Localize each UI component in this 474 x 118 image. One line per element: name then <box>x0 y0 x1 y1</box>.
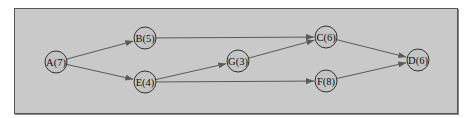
edge-g-to-c <box>249 40 315 58</box>
node-label: A(7) <box>46 57 66 69</box>
node-b: B(5) <box>134 27 156 49</box>
edge-a-to-e <box>67 64 134 79</box>
activity-network-diagram: A(7)B(5)E(4)G(3)C(6)F(8)D(6) <box>0 0 474 118</box>
node-c: C(6) <box>315 26 337 48</box>
node-label: D(6) <box>408 55 428 67</box>
edge-e-to-f <box>156 81 314 82</box>
edge-a-to-b <box>67 41 134 59</box>
edge-c-to-d <box>337 40 407 57</box>
node-a: A(7) <box>45 51 67 73</box>
node-label: G(3) <box>228 56 248 68</box>
node-f: F(8) <box>315 70 337 92</box>
node-label: B(5) <box>135 33 155 45</box>
node-g: G(3) <box>227 50 249 72</box>
node-label: C(6) <box>316 32 336 44</box>
edge-e-to-g <box>156 64 227 80</box>
node-label: E(4) <box>136 77 155 89</box>
node-e: E(4) <box>134 71 156 93</box>
nodes-layer: A(7)B(5)E(4)G(3)C(6)F(8)D(6) <box>45 26 429 93</box>
node-d: D(6) <box>407 49 429 71</box>
node-label: F(8) <box>317 76 336 88</box>
edge-b-to-c <box>156 37 314 38</box>
edge-f-to-d <box>337 63 407 79</box>
